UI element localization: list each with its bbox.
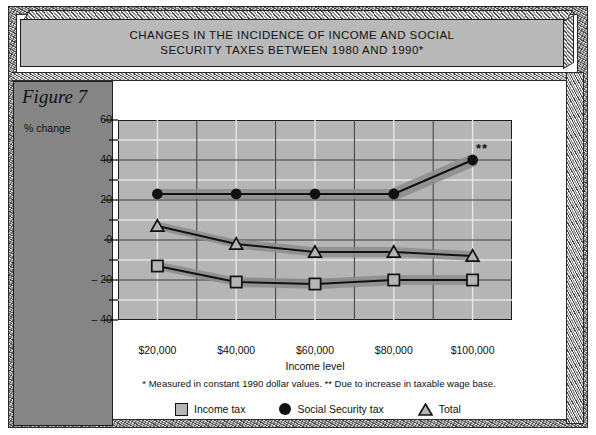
figure-page: CHANGES IN THE INCIDENCE OF INCOME AND S…	[0, 0, 596, 435]
x-axis-labels: $20,000$40,000$60,000$80,000$100,000	[118, 344, 512, 360]
legend-item-total: Total	[418, 403, 461, 416]
x-tick-label: $80,000	[375, 344, 413, 356]
triangle-marker-icon	[418, 403, 433, 416]
x-tick-label: $60,000	[296, 344, 334, 356]
banner-lower-texture-strip	[12, 72, 584, 81]
square-marker-icon	[175, 403, 188, 416]
legend-label-social-security-tax: Social Security tax	[297, 403, 383, 415]
plot-area	[118, 120, 512, 320]
annotation-double-asterisk: **	[476, 141, 488, 156]
x-tick-label: $100,000	[451, 344, 495, 356]
title-banner: CHANGES IN THE INCIDENCE OF INCOME AND S…	[12, 10, 584, 72]
legend-item-social-security-tax: Social Security tax	[279, 403, 383, 415]
right-texture-strip	[566, 72, 584, 424]
legend-item-income-tax: Income tax	[175, 403, 245, 416]
circle-marker-icon	[279, 403, 291, 415]
banner-face: CHANGES IN THE INCIDENCE OF INCOME AND S…	[20, 19, 564, 67]
footnote-text: * Measured in constant 1990 dollar value…	[114, 378, 524, 389]
y-axis-ticks	[104, 112, 118, 332]
banner-side-bevel	[563, 15, 574, 69]
chart-title-line-1: CHANGES IN THE INCIDENCE OF INCOME AND S…	[21, 28, 563, 43]
x-tick-label: $40,000	[217, 344, 255, 356]
x-axis-title: Income level	[118, 360, 512, 372]
legend-label-total: Total	[439, 403, 461, 415]
chart-title-line-2: SECURITY TAXES BETWEEN 1980 AND 1990*	[21, 43, 563, 58]
chart-legend: Income tax Social Security tax Total	[118, 398, 518, 420]
figure-label: Figure 7	[22, 86, 110, 108]
chart-svg	[118, 120, 512, 320]
chart-title: CHANGES IN THE INCIDENCE OF INCOME AND S…	[21, 28, 563, 58]
x-tick-label: $20,000	[138, 344, 176, 356]
legend-label-income-tax: Income tax	[194, 403, 245, 415]
y-tick-marks-svg	[104, 112, 118, 332]
